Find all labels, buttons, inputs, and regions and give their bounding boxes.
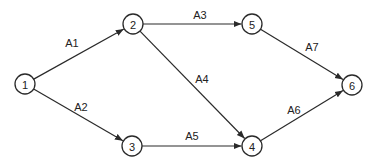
edge-label: A4: [195, 73, 208, 85]
edge-a7: [261, 29, 343, 79]
edge-labels-group: A1A2A3A4A5A6A7: [65, 9, 318, 142]
edge-a2: [34, 89, 123, 141]
edge-label: A5: [185, 130, 198, 142]
node-6: 6: [342, 75, 362, 95]
node-5: 5: [242, 14, 262, 34]
node-1: 1: [15, 74, 35, 94]
node-label: 4: [249, 141, 255, 153]
edge-label: A1: [65, 37, 78, 49]
edge-label: A2: [74, 101, 87, 113]
edge-label: A7: [305, 41, 318, 53]
node-label: 1: [22, 79, 28, 91]
network-diagram: 123456 A1A2A3A4A5A6A7: [0, 0, 378, 165]
edge-a4: [140, 31, 245, 138]
edge-a6: [261, 90, 343, 140]
node-label: 3: [129, 141, 135, 153]
edge-label: A6: [287, 104, 300, 116]
node-4: 4: [242, 136, 262, 156]
node-label: 6: [349, 80, 355, 92]
node-2: 2: [123, 14, 143, 34]
edge-label: A3: [193, 9, 206, 21]
node-label: 5: [249, 19, 255, 31]
node-label: 2: [130, 19, 136, 31]
edges-group: [34, 24, 343, 146]
edge-a1: [34, 29, 124, 79]
node-3: 3: [122, 136, 142, 156]
